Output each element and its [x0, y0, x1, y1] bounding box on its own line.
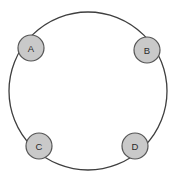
node-a[interactable]: A — [18, 35, 44, 61]
node-d-label: D — [131, 141, 138, 152]
node-b[interactable]: B — [134, 37, 160, 63]
node-b-label: B — [144, 45, 151, 56]
node-a-label: A — [28, 43, 35, 54]
node-c-label: C — [35, 141, 42, 152]
node-c[interactable]: C — [26, 133, 52, 159]
ring-topology-diagram: A B C D — [0, 0, 176, 181]
node-d[interactable]: D — [122, 133, 148, 159]
diagram-canvas: A B C D — [0, 0, 176, 181]
